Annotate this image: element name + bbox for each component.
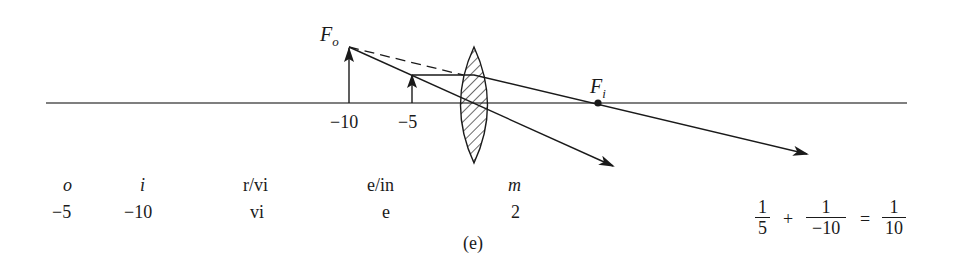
plus-sign: + — [783, 210, 793, 228]
header-m: m — [508, 176, 521, 194]
image-focal-point — [594, 99, 601, 106]
equation-term-2: 1 −10 — [806, 198, 846, 238]
denominator: 10 — [882, 217, 906, 238]
image-focal-label: Fi — [590, 76, 606, 100]
numerator: 1 — [819, 198, 834, 217]
value-rvi: vi — [250, 203, 264, 221]
value-ein: e — [382, 203, 390, 221]
denominator: 5 — [755, 217, 770, 238]
equation-term-3: 1 10 — [882, 198, 906, 238]
tick-label-minus5: −5 — [398, 113, 417, 131]
denominator: −10 — [806, 217, 846, 238]
dashed-virtual-ray — [349, 47, 463, 75]
focal-label-main: F — [590, 75, 602, 97]
converging-lens — [461, 47, 488, 163]
header-o: o — [63, 176, 72, 194]
object-focal-label: Fo — [320, 24, 339, 48]
value-o: −5 — [52, 203, 71, 221]
header-i: i — [140, 176, 145, 194]
numerator: 1 — [887, 198, 902, 217]
figure-caption: (e) — [463, 234, 483, 252]
focal-label-sub: i — [602, 86, 606, 101]
header-ein: e/in — [367, 176, 394, 194]
equation-term-1: 1 5 — [755, 198, 770, 238]
value-i: −10 — [124, 203, 152, 221]
equals-sign: = — [860, 210, 870, 228]
header-rvi: r/vi — [243, 176, 268, 194]
tick-label-minus10: −10 — [330, 113, 358, 131]
focal-label-main: F — [320, 23, 332, 45]
focal-label-sub: o — [332, 34, 339, 49]
value-m: 2 — [511, 203, 520, 221]
numerator: 1 — [755, 198, 770, 217]
